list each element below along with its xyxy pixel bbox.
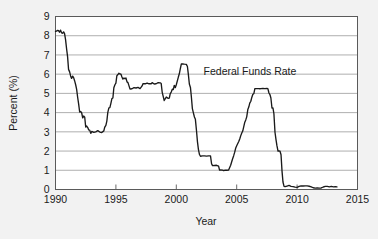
chart-figure: 199019952000200520102015 0123456789 Year… <box>0 0 378 239</box>
y-tick-label-6: 6 <box>44 68 50 80</box>
x-tick-label-2015: 2015 <box>346 193 370 205</box>
y-axis-title: Percent (%) <box>7 75 19 130</box>
y-tick-label-9: 9 <box>44 10 50 22</box>
y-tick-label-7: 7 <box>44 49 50 61</box>
federal-funds-rate-chart: 199019952000200520102015 0123456789 Year… <box>0 0 378 239</box>
x-tick-label-2005: 2005 <box>225 193 249 205</box>
x-axis-title: Year <box>195 215 217 227</box>
y-tick-label-3: 3 <box>44 126 50 138</box>
x-tick-label-2010: 2010 <box>285 193 309 205</box>
y-tick-label-1: 1 <box>44 164 50 176</box>
y-tick-label-8: 8 <box>44 29 50 41</box>
plot-area-background <box>56 17 358 190</box>
x-tick-label-1995: 1995 <box>104 193 128 205</box>
series-annotation-label: Federal Funds Rate <box>204 65 297 77</box>
y-tick-label-4: 4 <box>44 106 50 118</box>
y-tick-label-5: 5 <box>44 87 50 99</box>
y-tick-label-2: 2 <box>44 145 50 157</box>
x-tick-label-2000: 2000 <box>165 193 189 205</box>
y-tick-label-0: 0 <box>44 183 50 195</box>
